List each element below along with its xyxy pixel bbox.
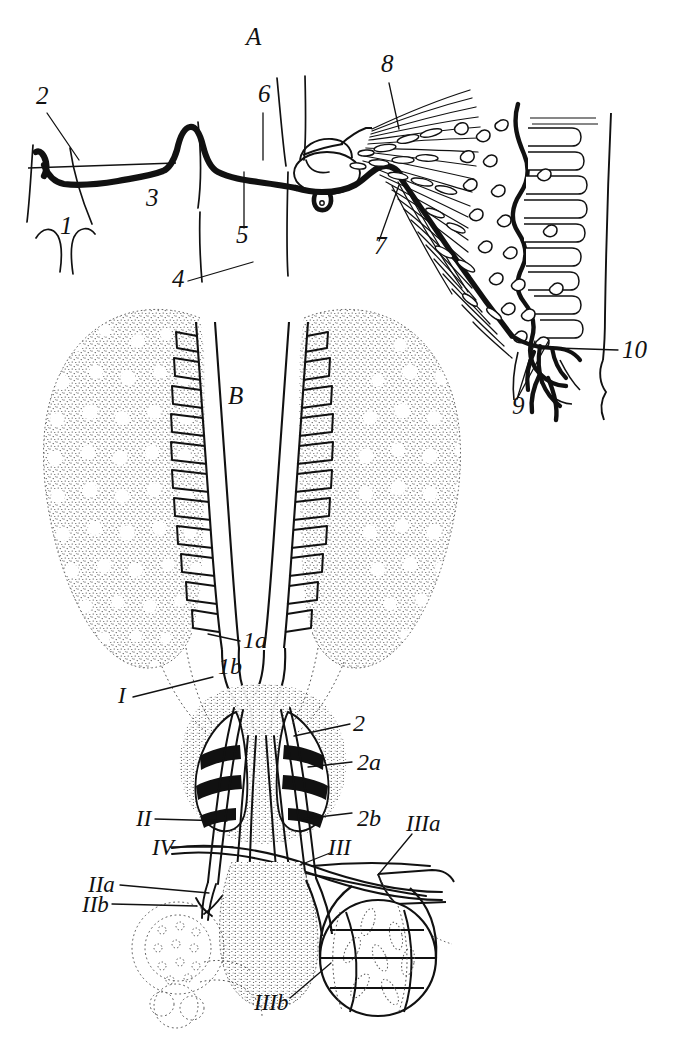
label-a-6: 6 [258,80,271,107]
panel-label-b: B [228,382,243,409]
label-b-2b: 2b [357,805,381,831]
anatomical-figure: 2 1 3 A 6 5 4 7 8 9 10 B 1a 1b I 2 2a 2b… [0,0,686,1050]
label-b-III: III [327,835,352,860]
label-b-IIIa: IIIa [405,811,440,836]
label-b-II: II [135,806,153,831]
label-a-10: 10 [622,336,648,363]
label-a-3: 3 [145,184,159,211]
label-b-1b: 1b [218,653,242,679]
label-a-5: 5 [236,221,249,248]
panel-label-a: A [244,23,262,50]
panel-a-ganglion-lumen [320,201,324,205]
label-a-9: 9 [512,392,525,419]
label-b-IIb: IIb [81,892,109,917]
label-a-1: 1 [60,212,73,239]
label-b-2: 2 [353,710,365,736]
label-b-IIIb: IIIb [253,990,288,1015]
label-b-IV: IV [151,835,177,860]
label-a-8: 8 [381,50,394,77]
label-b-I: I [117,683,127,708]
label-a-2: 2 [36,82,49,109]
label-a-7: 7 [374,232,388,259]
label-b-2a: 2a [357,749,381,775]
figure-canvas: 2 1 3 A 6 5 4 7 8 9 10 B 1a 1b I 2 2a 2b… [0,0,686,1050]
label-b-1a: 1a [243,627,267,653]
label-a-4: 4 [172,265,185,292]
